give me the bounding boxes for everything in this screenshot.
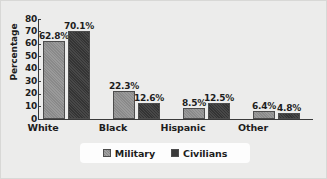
x-category-label-hispanic: Hispanic	[146, 122, 220, 133]
bar-group-hispanic: 8.5% 12.5%	[183, 19, 233, 119]
bar-value-hispanic-civilians: 12.5%	[204, 93, 234, 103]
legend-item-civilians[interactable]: Civilians	[171, 148, 227, 159]
bar-group-other: 6.4% 4.8%	[253, 19, 303, 119]
bar-group-black: 22.3% 12.6%	[113, 19, 163, 119]
legend-swatch-civilians-icon	[171, 149, 179, 157]
bar-group-white: 62.8% 70.1%	[43, 19, 93, 119]
x-category-label-other: Other	[216, 122, 290, 133]
bar-value-white-military: 62.8%	[39, 31, 69, 41]
legend-label-civilians: Civilians	[183, 148, 227, 159]
bar-white-civilians[interactable]: 70.1%	[68, 31, 90, 119]
bar-black-military[interactable]: 22.3%	[113, 91, 135, 119]
bar-value-other-military: 6.4%	[252, 101, 276, 111]
plot-area: 62.8% 70.1% 22.3% 12.6% 8.5% 12.5%	[39, 19, 313, 119]
bar-value-black-civilians: 12.6%	[134, 93, 164, 103]
bar-other-military[interactable]: 6.4%	[253, 111, 275, 119]
x-category-label-black: Black	[76, 122, 150, 133]
legend-item-military[interactable]: Military	[103, 148, 155, 159]
bar-value-black-military: 22.3%	[109, 81, 139, 91]
bar-hispanic-military[interactable]: 8.5%	[183, 108, 205, 119]
bar-value-hispanic-military: 8.5%	[182, 98, 206, 108]
y-tick-10: 10	[3, 102, 37, 111]
y-axis-ticks: 80 70 60 50 40 30 20 10 0	[1, 1, 37, 120]
bar-chart-panel: 80 70 60 50 40 30 20 10 0 Percentage 62.…	[0, 0, 327, 179]
chart-legend: Military Civilians	[80, 143, 250, 163]
bar-other-civilians[interactable]: 4.8%	[278, 113, 300, 119]
x-axis-line	[38, 119, 313, 120]
bar-hispanic-civilians[interactable]: 12.5%	[208, 103, 230, 119]
legend-swatch-military-icon	[103, 149, 111, 157]
bar-black-civilians[interactable]: 12.6%	[138, 103, 160, 119]
bar-white-military[interactable]: 62.8%	[43, 41, 65, 120]
legend-label-military: Military	[115, 148, 155, 159]
y-tick-20: 20	[3, 89, 37, 98]
bar-value-white-civilians: 70.1%	[64, 21, 94, 31]
x-category-label-white: White	[6, 122, 80, 133]
y-axis-title: Percentage	[9, 17, 19, 87]
bar-value-other-civilians: 4.8%	[277, 103, 301, 113]
